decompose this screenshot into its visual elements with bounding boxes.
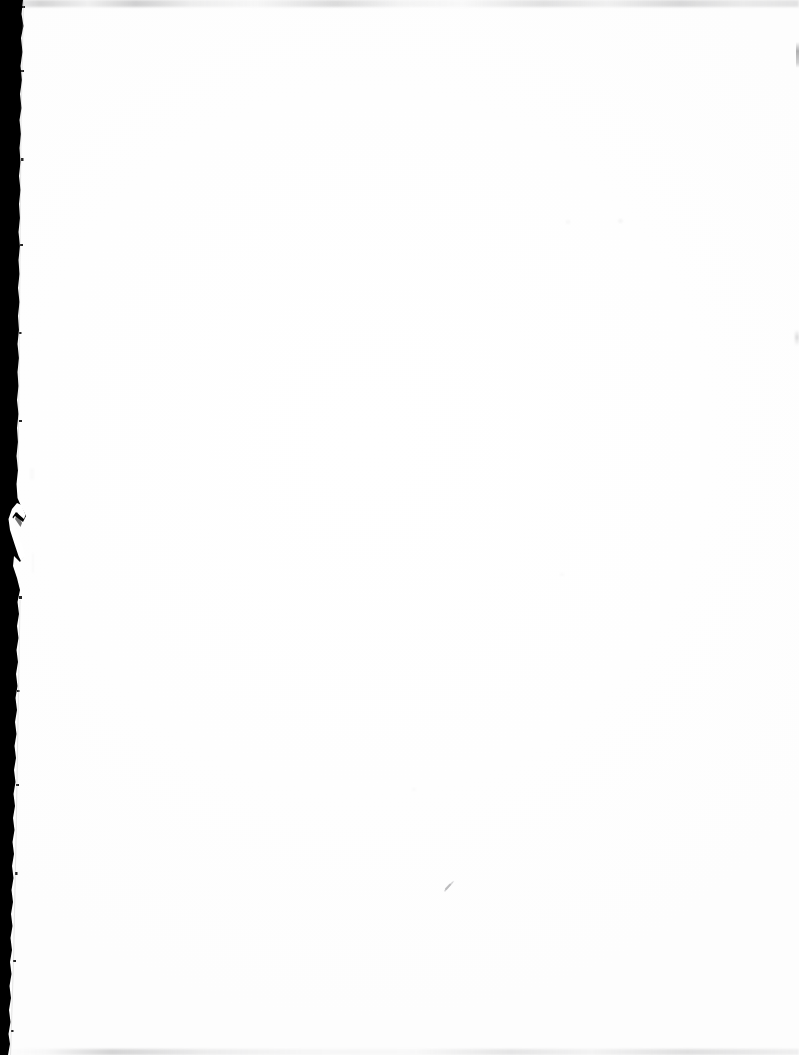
scanned-page: [0, 0, 799, 1055]
scanner-bed-black-border: [0, 0, 70, 1055]
dust-speck: [618, 219, 623, 223]
bottom-edge-smudge: [0, 1049, 799, 1055]
dust-speck: [566, 220, 570, 224]
top-edge-smudge: [0, 0, 799, 7]
pencil-speck: [443, 879, 457, 893]
dust-speck: [560, 573, 564, 576]
paper-surface: [0, 0, 799, 1055]
right-edge-mark-lower: [795, 330, 799, 346]
dust-speck: [412, 788, 416, 791]
